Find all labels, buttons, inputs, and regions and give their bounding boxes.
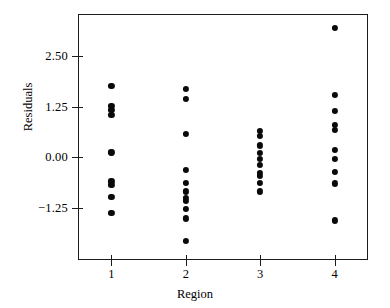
data-point <box>331 108 337 114</box>
data-point <box>257 162 263 168</box>
x-axis-tick <box>260 255 261 266</box>
x-axis-tick-label: 1 <box>91 268 131 281</box>
y-axis-title: Residuals <box>21 47 35 167</box>
y-axis-tick <box>72 208 83 209</box>
data-point <box>108 210 114 216</box>
data-point <box>257 133 263 139</box>
data-point <box>183 86 189 92</box>
scatter-plot-figure: 2.501.250.00−1.25 1234 Residuals Region <box>0 0 390 308</box>
data-point <box>257 142 263 148</box>
data-point <box>257 173 263 179</box>
x-axis-tick-label: 4 <box>315 268 355 281</box>
data-point <box>257 179 263 185</box>
x-axis-title: Region <box>0 287 390 301</box>
data-point <box>183 179 189 185</box>
x-axis-tick-label: 2 <box>166 268 206 281</box>
data-point <box>331 169 337 175</box>
data-point <box>108 181 114 187</box>
data-point <box>331 156 337 162</box>
data-point <box>331 127 337 133</box>
data-point <box>331 180 337 186</box>
y-axis-tick <box>72 107 83 108</box>
data-point <box>108 149 114 155</box>
data-point <box>183 206 189 212</box>
data-point <box>108 83 114 89</box>
data-point <box>257 188 263 194</box>
data-point <box>183 215 189 221</box>
data-point <box>331 146 337 152</box>
data-point <box>331 92 337 98</box>
data-point <box>183 238 189 244</box>
plot-area <box>78 14 368 260</box>
data-point <box>183 167 189 173</box>
x-axis-tick <box>335 255 336 266</box>
data-point <box>183 96 189 102</box>
y-axis-tick-label: −1.25 <box>0 201 68 214</box>
x-axis-tick-label: 3 <box>240 268 280 281</box>
data-point <box>108 194 114 200</box>
y-axis-tick <box>72 56 83 57</box>
data-point <box>183 131 189 137</box>
x-axis-tick <box>111 255 112 266</box>
y-axis-tick <box>72 157 83 158</box>
data-point <box>183 188 189 194</box>
data-point <box>183 198 189 204</box>
x-axis-tick <box>186 255 187 266</box>
data-point <box>331 217 337 223</box>
data-point <box>331 25 337 31</box>
data-point <box>108 112 114 118</box>
